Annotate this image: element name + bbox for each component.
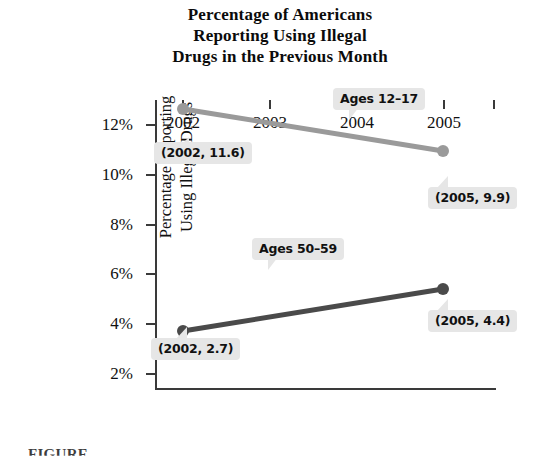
series-label-ages-50-59: Ages 50–59 bbox=[252, 238, 344, 260]
y-tick-2: 2% bbox=[146, 373, 155, 375]
y-tick-10: 10% bbox=[146, 174, 155, 176]
point-label-2005-9-9: (2005, 9.9) bbox=[428, 187, 517, 209]
figure-caption: FIGURE bbox=[28, 446, 88, 462]
y-tick-6: 6% bbox=[146, 273, 155, 275]
series-label-ages-12-17: Ages 12–17 bbox=[333, 88, 425, 110]
y-tick-label-8: 8% bbox=[110, 216, 133, 233]
series-ages-12-17-point-2002 bbox=[177, 103, 189, 115]
y-tick-label-6: 6% bbox=[110, 265, 133, 282]
point-label-2002-11-6: (2002, 11.6) bbox=[154, 142, 252, 164]
chart-title: Percentage of Americans Reporting Using … bbox=[120, 4, 440, 67]
y-tick-8: 8% bbox=[146, 224, 155, 226]
series-label-ages-50-59-tail bbox=[268, 257, 278, 270]
y-tick-label-10: 10% bbox=[102, 166, 133, 183]
series-ages-12-17-point-2005 bbox=[437, 145, 449, 157]
point-label-2005-4-4-tail bbox=[437, 299, 448, 311]
series-ages-50-59-point-2005 bbox=[437, 283, 449, 295]
point-label-2005-4-4: (2005, 4.4) bbox=[428, 310, 517, 332]
point-label-2005-9-9-tail bbox=[437, 176, 448, 188]
point-label-2002-2-7-tail bbox=[176, 327, 187, 339]
point-label-2002-11-6-tail bbox=[178, 137, 189, 148]
chart-title-line-1: Percentage of Americans bbox=[120, 4, 440, 25]
y-tick-label-4: 4% bbox=[110, 315, 133, 332]
y-tick-label-12: 12% bbox=[102, 116, 133, 133]
y-tick-label-2: 2% bbox=[110, 365, 133, 382]
x-axis-line bbox=[155, 388, 496, 390]
y-tick-4: 4% bbox=[146, 323, 155, 325]
chart-title-line-2: Reporting Using Illegal bbox=[120, 25, 440, 46]
series-ages-50-59-line bbox=[183, 289, 443, 331]
series-label-ages-12-17-tail bbox=[349, 107, 359, 120]
point-label-2002-2-7: (2002, 2.7) bbox=[151, 338, 240, 360]
y-tick-12: 12% bbox=[146, 124, 155, 126]
series-ages-50-59 bbox=[177, 283, 449, 337]
